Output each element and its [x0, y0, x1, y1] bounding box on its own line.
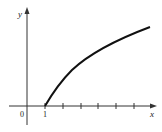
- tick-label-1: 1: [43, 111, 47, 119]
- y-axis-arrow-icon: [25, 7, 30, 14]
- x-axis-label: x: [150, 110, 154, 119]
- chart-canvas: [0, 0, 162, 132]
- y-axis-label: y: [18, 10, 22, 19]
- curve-line: [45, 27, 150, 106]
- x-axis-arrow-icon: [150, 104, 157, 109]
- origin-label: 0: [20, 111, 24, 119]
